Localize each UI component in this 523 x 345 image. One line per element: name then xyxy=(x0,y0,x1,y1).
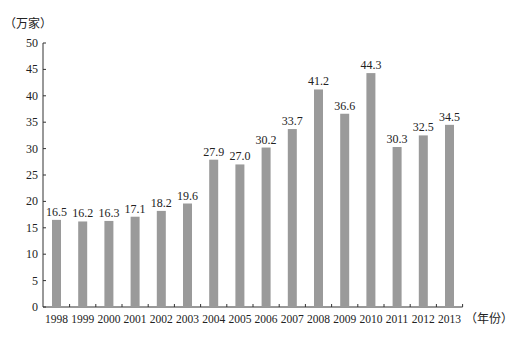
x-tick-label: 2003 xyxy=(176,313,199,325)
data-label: 30.3 xyxy=(387,132,408,146)
data-label: 30.2 xyxy=(256,133,277,147)
y-tick-label: 40 xyxy=(26,89,38,103)
bar-2013 xyxy=(445,125,454,307)
data-label: 41.2 xyxy=(308,74,329,88)
bar-2006 xyxy=(262,148,271,307)
x-tick-label: 2006 xyxy=(255,313,278,325)
x-axis-unit-label: （年份） xyxy=(465,312,513,326)
x-tick-label: 2001 xyxy=(124,313,147,325)
bar-2002 xyxy=(157,211,166,307)
x-tick-label: 2009 xyxy=(333,313,356,325)
bar-2000 xyxy=(104,221,113,307)
x-tick-label: 2010 xyxy=(359,313,382,325)
y-tick-label: 35 xyxy=(26,115,38,129)
bar-2011 xyxy=(393,147,402,307)
bar-2007 xyxy=(288,129,297,307)
y-axis-unit-label: （万家） xyxy=(4,16,52,31)
bar-2003 xyxy=(183,204,192,307)
bar-2008 xyxy=(314,89,323,307)
y-tick-label: 0 xyxy=(32,300,38,314)
x-tick-label: 2012 xyxy=(412,313,435,325)
bar-2001 xyxy=(131,217,140,307)
bar-2009 xyxy=(340,114,349,307)
data-label: 17.1 xyxy=(125,202,146,216)
data-label: 16.2 xyxy=(72,206,93,220)
bar-chart: （万家）0510152025303540455016.5199816.21999… xyxy=(0,0,523,345)
y-tick-label: 25 xyxy=(26,168,38,182)
bar-1999 xyxy=(78,221,87,307)
x-tick-label: 2013 xyxy=(438,313,461,325)
x-tick-label: 2000 xyxy=(97,313,120,325)
bar-1998 xyxy=(52,220,61,307)
data-label: 16.3 xyxy=(98,206,119,220)
x-tick-label: 2008 xyxy=(307,313,330,325)
y-tick-label: 10 xyxy=(26,247,38,261)
y-tick-label: 30 xyxy=(26,142,38,156)
data-label: 44.3 xyxy=(360,58,381,72)
bar-2012 xyxy=(419,135,428,307)
data-label: 34.5 xyxy=(439,110,460,124)
data-label: 18.2 xyxy=(151,196,172,210)
y-tick-label: 20 xyxy=(26,194,38,208)
y-tick-label: 15 xyxy=(26,221,38,235)
data-label: 16.5 xyxy=(46,205,67,219)
x-tick-label: 1998 xyxy=(45,313,68,325)
y-tick-label: 45 xyxy=(26,62,38,76)
y-tick-label: 50 xyxy=(26,36,38,50)
y-tick-label: 5 xyxy=(32,274,38,288)
x-tick-label: 2002 xyxy=(150,313,173,325)
x-tick-label: 2004 xyxy=(202,313,225,325)
bar-2005 xyxy=(235,164,244,307)
x-tick-label: 1999 xyxy=(71,313,94,325)
data-label: 36.6 xyxy=(334,99,355,113)
data-label: 27.9 xyxy=(203,145,224,159)
data-label: 32.5 xyxy=(413,120,434,134)
x-tick-label: 2007 xyxy=(281,313,304,325)
data-label: 27.0 xyxy=(229,149,250,163)
x-tick-label: 2005 xyxy=(228,313,251,325)
data-label: 33.7 xyxy=(282,114,303,128)
data-label: 19.6 xyxy=(177,189,198,203)
bar-2004 xyxy=(209,160,218,307)
x-tick-label: 2011 xyxy=(386,313,409,325)
bar-2010 xyxy=(366,73,375,307)
